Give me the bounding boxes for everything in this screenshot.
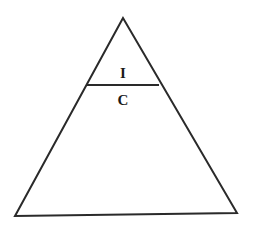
triangle-outline (15, 18, 237, 216)
triangle-diagram: I C (0, 0, 253, 230)
label-bottom-c: C (118, 92, 129, 108)
label-top-i: I (120, 65, 126, 81)
